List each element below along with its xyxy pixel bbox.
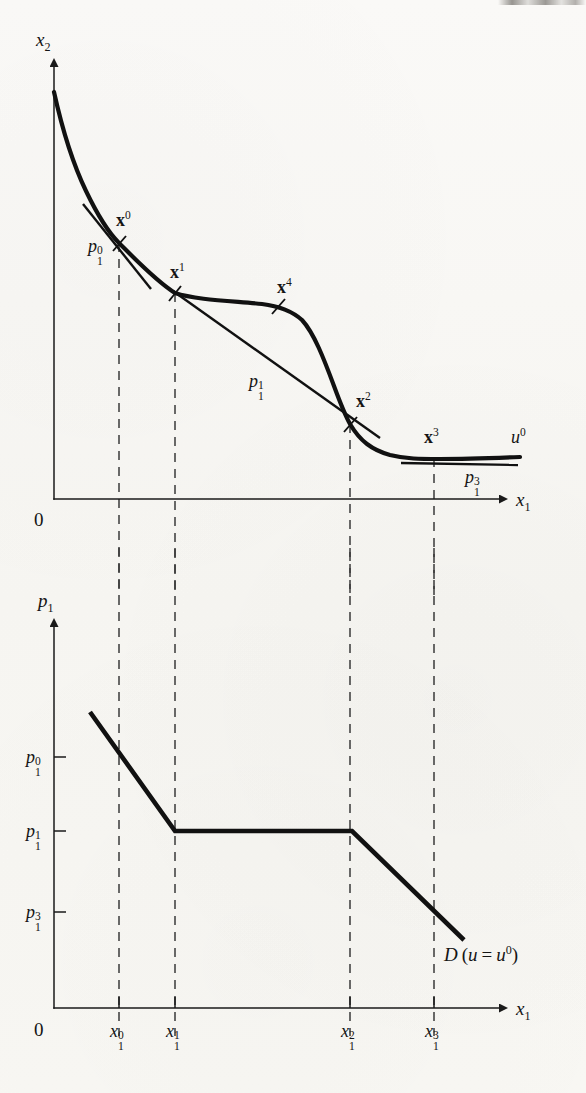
y-tick-label-p1-3-base: p <box>26 902 35 922</box>
price-line-label-p1-3-sub: 1 <box>474 487 480 499</box>
price-line-label-p1-0-sub: 1 <box>97 256 103 268</box>
point-label-x3-sup: 3 <box>433 426 439 438</box>
demand-curve-label-D: D <box>444 944 458 965</box>
point-label-x2-sup: 2 <box>365 390 371 402</box>
x-tick-label-x1-3-sub: 1 <box>433 1041 439 1053</box>
y-tick-label-p1-1-sub: 1 <box>35 841 41 853</box>
bottom-y-axis-label-base: p <box>38 590 48 611</box>
figure-vector-canvas <box>0 0 586 1093</box>
point-label-x4-base: x <box>277 277 286 297</box>
y-tick-label-p1-1-base: p <box>26 821 35 841</box>
x-tick-label-x1-1: x11 <box>166 1022 183 1040</box>
bottom-x-axis-label-sub: 1 <box>524 1009 530 1023</box>
tangent-line-p1-1 <box>173 291 380 438</box>
point-label-x3-base: x <box>424 427 433 447</box>
y-tick-label-p1-0-base: p <box>26 747 35 767</box>
indifference-curve-label-sup: 0 <box>520 426 526 438</box>
bottom-y-axis-label-sub: 1 <box>48 601 54 615</box>
demand-curve-label-u: u <box>468 944 478 965</box>
point-label-x0-sup: 0 <box>125 209 131 221</box>
top-panel-group <box>54 66 520 596</box>
price-line-label-p1-1: p11 <box>249 372 267 390</box>
price-line-label-p1-3-base: p <box>465 467 474 487</box>
x-tick-label-x1-3-base: x <box>425 1021 433 1041</box>
x-tick-label-x1-0-sub: 1 <box>118 1041 124 1053</box>
figure-root: x2 x1 0 x0 x1 x2 x3 x4 p01 p11 p31 u0 p1… <box>0 0 586 1093</box>
x-tick-label-x1-0-base: x <box>110 1021 118 1041</box>
y-tick-label-p1-3: p31 <box>26 903 44 921</box>
price-line-label-p1-0: p01 <box>88 237 106 255</box>
x-tick-label-x1-1-sub: 1 <box>174 1041 180 1053</box>
top-x-axis-label: x1 <box>516 490 531 509</box>
point-label-x1: x1 <box>170 263 185 281</box>
bottom-origin-label: 0 <box>34 1020 44 1039</box>
tangent-line-p1-3 <box>401 463 518 465</box>
demand-curve-label: D(u=u0) <box>444 945 518 964</box>
bottom-x-ticks <box>119 997 434 1008</box>
point-label-x0: x0 <box>116 211 131 229</box>
top-y-axis-label: x2 <box>36 30 51 49</box>
bottom-x-axis-label: x1 <box>516 999 531 1018</box>
price-line-label-p1-3: p31 <box>465 468 483 486</box>
x-tick-label-x1-3: x31 <box>425 1022 442 1040</box>
x-tick-label-x1-2-base: x <box>341 1021 349 1041</box>
top-x-axis-label-sub: 1 <box>524 500 530 514</box>
point-label-x3: x3 <box>424 428 439 446</box>
y-tick-label-p1-3-sub: 1 <box>35 922 41 934</box>
point-label-x1-sup: 1 <box>179 261 185 273</box>
demand-curve-label-uref: u <box>496 944 506 965</box>
top-origin-label: 0 <box>34 510 44 529</box>
demand-curve-label-equals: = <box>482 944 493 965</box>
indifference-curve-label-base: u <box>511 427 520 447</box>
y-tick-label-p1-0: p01 <box>26 748 44 766</box>
demand-curve-label-close: ) <box>512 944 518 965</box>
price-line-label-p1-1-base: p <box>249 371 258 391</box>
point-label-x1-base: x <box>170 262 179 282</box>
bottom-y-ticks <box>54 757 66 912</box>
price-line-label-p1-0-base: p <box>88 236 97 256</box>
point-label-x4-sup: 4 <box>286 276 292 288</box>
point-label-x0-base: x <box>116 210 125 230</box>
bottom-panel-group <box>54 548 500 1036</box>
point-label-x2: x2 <box>356 392 371 410</box>
top-y-axis-label-sub: 2 <box>44 40 50 54</box>
indifference-curve-label-u0: u0 <box>511 428 526 446</box>
bottom-y-axis-label: p1 <box>38 591 54 610</box>
price-line-label-p1-1-sub: 1 <box>258 391 264 403</box>
x-tick-label-x1-2-sub: 1 <box>349 1041 355 1053</box>
y-tick-label-p1-1: p11 <box>26 822 44 840</box>
bottom-dashed-guides <box>119 548 434 1036</box>
point-label-x2-base: x <box>356 391 365 411</box>
demand-curve-D <box>90 712 464 940</box>
x-tick-label-x1-1-base: x <box>166 1021 174 1041</box>
point-label-x4: x4 <box>277 278 292 296</box>
x-tick-label-x1-2: x21 <box>341 1022 358 1040</box>
x-tick-label-x1-0: x01 <box>110 1022 127 1040</box>
y-tick-label-p1-0-sub: 1 <box>35 767 41 779</box>
